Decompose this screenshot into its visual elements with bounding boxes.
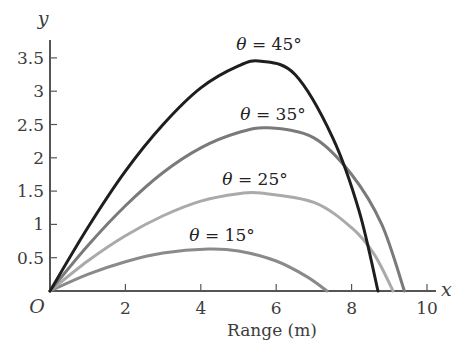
y-tick-label: 0.5	[17, 248, 44, 268]
x-tick-label: 4	[195, 298, 206, 318]
x-tick-label: 2	[120, 298, 131, 318]
y-tick-label: 1.5	[17, 181, 44, 201]
curve-label: θ = 25°	[222, 169, 287, 189]
trajectory-curve	[50, 61, 378, 291]
y-tick-label: 2.5	[17, 115, 44, 135]
y-tick-label: 1	[33, 214, 44, 234]
x-axis-letter: x	[441, 278, 452, 300]
y-tick-label: 2	[33, 148, 44, 168]
trajectory-chart: 2468100.511.522.533.5yxORange (m)θ = 45°…	[0, 0, 453, 348]
origin-label: O	[29, 295, 45, 317]
curve-label: θ = 45°	[236, 34, 301, 54]
y-tick-label: 3.5	[17, 48, 44, 68]
x-axis-title: Range (m)	[227, 320, 317, 340]
curve-label: θ = 15°	[189, 225, 254, 245]
y-axis-letter: y	[37, 7, 49, 29]
trajectory-curve	[50, 249, 327, 291]
trajectory-curve	[50, 128, 404, 291]
y-tick-label: 3	[33, 81, 44, 101]
curve-label: θ = 35°	[240, 104, 305, 124]
x-tick-label: 6	[271, 298, 282, 318]
x-tick-label: 10	[416, 298, 438, 318]
chart-canvas: 2468100.511.522.533.5yxORange (m)θ = 45°…	[0, 0, 453, 348]
x-tick-label: 8	[346, 298, 357, 318]
